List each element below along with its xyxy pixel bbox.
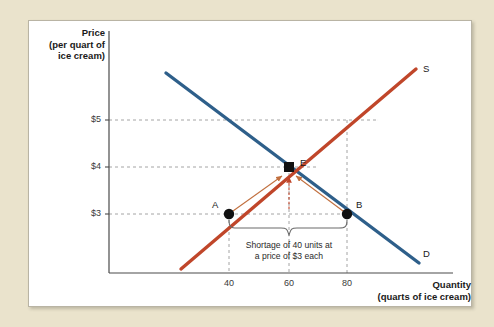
y-axis-title: Price (per quart of ice cream) [27,27,105,62]
shortage-annotation: Shortage of 40 units at a price of $3 ea… [211,240,367,263]
y-tick-label-3: $3 [77,208,101,219]
point-label-b: B [356,199,362,211]
shortage-brace [229,220,347,235]
x-axis-title: Quantity (quarts of ice cream) [345,279,471,302]
x-axis-title-sub: (quarts of ice cream) [345,291,471,303]
figure-root: Price (per quart of ice cream) Quantity … [0,0,494,327]
point-marker-b[interactable] [342,209,352,219]
x-tick-label-60: 60 [277,278,301,289]
point-label-a: A [212,199,218,211]
arrow-b-to-e [296,176,343,211]
supply-curve-label: S [423,63,429,75]
x-axis-title-main: Quantity [345,279,471,291]
point-label-e: E [300,157,306,169]
y-tick-label-5: $5 [77,114,101,125]
x-tick-label-80: 80 [335,278,359,289]
point-marker-a[interactable] [224,209,234,219]
data-points [224,162,352,219]
supply-curve[interactable] [181,69,416,269]
shortage-annotation-line-2: a price of $3 each [211,251,367,262]
axes [109,31,453,273]
x-tick-label-40: 40 [217,278,241,289]
y-tick-label-4: $4 [77,161,101,172]
point-marker-e[interactable] [284,162,294,172]
demand-curve-label: D [423,248,430,260]
y-axis-title-sub-2: ice cream) [27,50,105,62]
y-axis-title-main: Price [27,27,105,39]
y-axis-title-sub-1: (per quart of [27,39,105,51]
chart-panel: Price (per quart of ice cream) Quantity … [28,20,472,307]
shortage-annotation-line-1: Shortage of 40 units at [211,240,367,251]
